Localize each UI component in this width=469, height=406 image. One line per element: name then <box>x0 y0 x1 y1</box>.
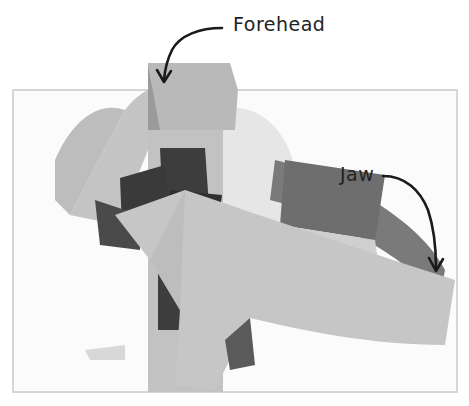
jaw-label: Jaw <box>340 163 374 185</box>
forehead-label: Forehead <box>233 13 325 35</box>
base-flap <box>85 345 125 360</box>
annotated-photo: Forehead Jaw <box>0 0 469 406</box>
helmet-illustration <box>0 0 469 406</box>
forehead-strip <box>148 63 238 130</box>
